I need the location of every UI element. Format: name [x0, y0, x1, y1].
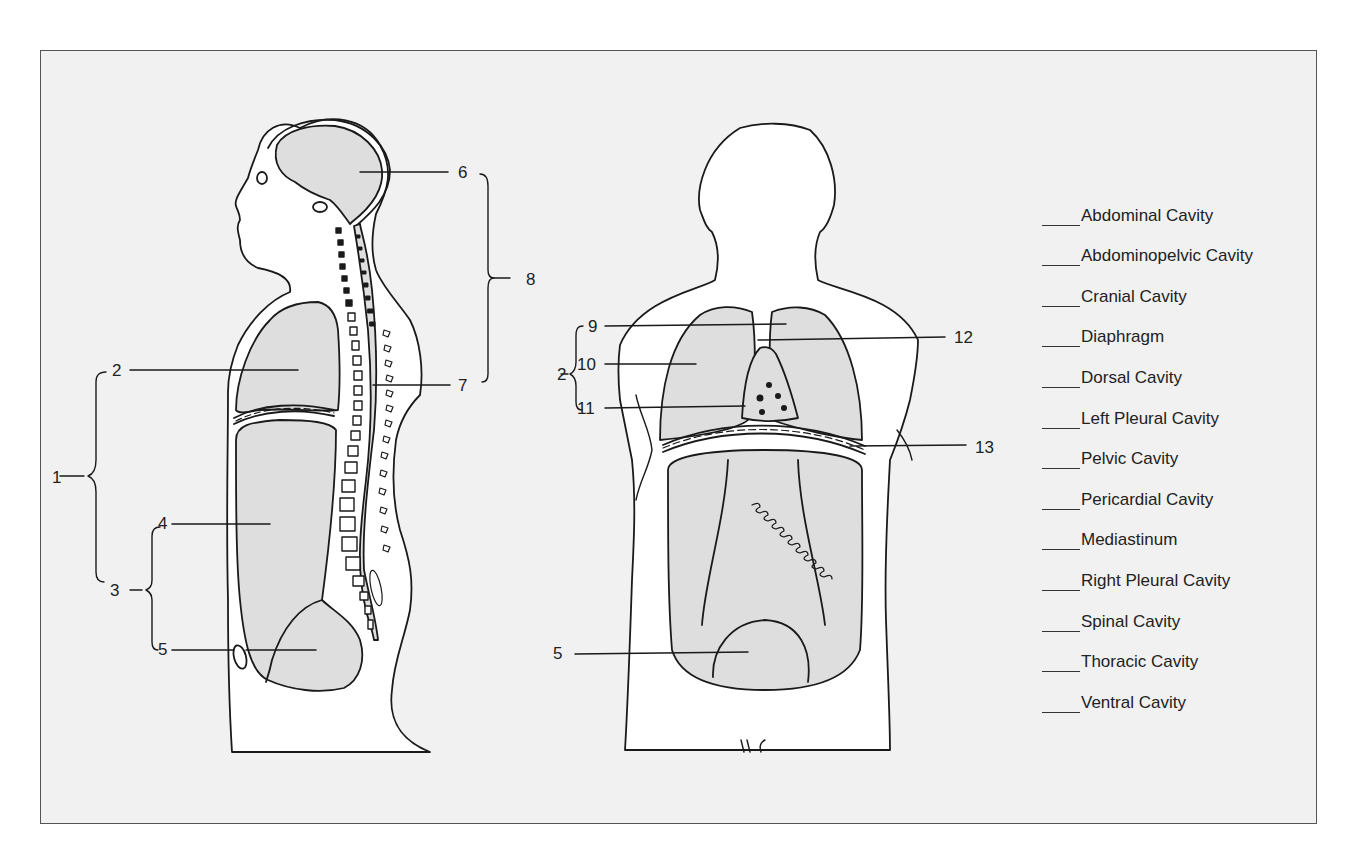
- term-label: Pericardial Cavity: [1081, 490, 1213, 510]
- callout-label: 9: [588, 318, 597, 335]
- callout-label: 13: [975, 439, 994, 456]
- term-label: Spinal Cavity: [1081, 612, 1180, 632]
- answer-blank[interactable]: [1042, 616, 1080, 632]
- word-bank-item: Pericardial Cavity: [1042, 469, 1253, 510]
- term-label: Abdominal Cavity: [1081, 206, 1213, 226]
- callout-label: 2: [112, 362, 121, 379]
- word-bank-item: Dorsal Cavity: [1042, 347, 1253, 388]
- term-label: Thoracic Cavity: [1081, 652, 1198, 672]
- word-bank-item: Mediastinum: [1042, 510, 1253, 551]
- answer-blank[interactable]: [1042, 250, 1080, 266]
- answer-blank[interactable]: [1042, 331, 1080, 347]
- answer-blank[interactable]: [1042, 210, 1080, 226]
- word-bank-item: Pelvic Cavity: [1042, 429, 1253, 470]
- answer-blank[interactable]: [1042, 372, 1080, 388]
- callout-label: 4: [158, 515, 167, 532]
- word-bank-item: Abdominal Cavity: [1042, 185, 1253, 226]
- sagittal-figure: [60, 119, 510, 752]
- word-bank-item: Diaphragm: [1042, 307, 1253, 348]
- callout-label: 3: [110, 582, 119, 599]
- answer-blank[interactable]: [1042, 575, 1080, 591]
- frontal-figure: [561, 124, 966, 752]
- answer-blank[interactable]: [1042, 291, 1080, 307]
- term-label: Cranial Cavity: [1081, 287, 1187, 307]
- term-label: Ventral Cavity: [1081, 693, 1186, 713]
- callout-label: 12: [954, 329, 973, 346]
- callout-label: 1: [52, 469, 61, 486]
- callout-label: 6: [458, 164, 467, 181]
- word-bank-item: Right Pleural Cavity: [1042, 550, 1253, 591]
- term-label: Left Pleural Cavity: [1081, 409, 1219, 429]
- answer-blank[interactable]: [1042, 656, 1080, 672]
- term-label: Diaphragm: [1081, 327, 1164, 347]
- answer-blank[interactable]: [1042, 494, 1080, 510]
- answer-blank[interactable]: [1042, 534, 1080, 550]
- word-bank-item: Abdominopelvic Cavity: [1042, 226, 1253, 267]
- callout-label: 10: [577, 356, 596, 373]
- term-label: Mediastinum: [1081, 530, 1177, 550]
- callout-label: 11: [577, 400, 595, 417]
- term-label: Abdominopelvic Cavity: [1081, 246, 1253, 266]
- answer-blank[interactable]: [1042, 413, 1080, 429]
- answer-blank[interactable]: [1042, 697, 1080, 713]
- answer-blank[interactable]: [1042, 453, 1080, 469]
- callout-label: 7: [458, 377, 467, 394]
- callout-label: 5: [158, 641, 167, 658]
- callout-label: 8: [526, 271, 535, 288]
- term-label: Right Pleural Cavity: [1081, 571, 1230, 591]
- callout-label: 2: [557, 366, 566, 383]
- word-bank: Abdominal Cavity Abdominopelvic Cavity C…: [1042, 185, 1253, 713]
- term-label: Dorsal Cavity: [1081, 368, 1182, 388]
- word-bank-item: Thoracic Cavity: [1042, 632, 1253, 673]
- term-label: Pelvic Cavity: [1081, 449, 1178, 469]
- word-bank-item: Cranial Cavity: [1042, 266, 1253, 307]
- word-bank-item: Ventral Cavity: [1042, 672, 1253, 713]
- word-bank-item: Spinal Cavity: [1042, 591, 1253, 632]
- callout-label: 5: [553, 645, 562, 662]
- word-bank-item: Left Pleural Cavity: [1042, 388, 1253, 429]
